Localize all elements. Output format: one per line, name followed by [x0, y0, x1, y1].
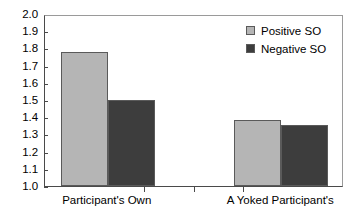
bar-negative-so-1	[281, 125, 328, 186]
y-axis-tick-label: 1.1	[0, 164, 38, 175]
bar-positive-so-0	[61, 52, 108, 186]
y-axis-tick-mark	[44, 84, 48, 85]
y-axis-tick-label: 1.0	[0, 181, 38, 192]
y-axis-tick-label: 1.3	[0, 129, 38, 140]
y-axis-tick-mark	[44, 32, 48, 33]
x-axis-category-label: A Yoked Participant's	[200, 193, 355, 207]
y-axis-tick-mark	[44, 187, 48, 188]
legend-label: Positive SO	[261, 25, 321, 37]
y-axis-tick-labels: 2.01.91.81.71.61.51.41.31.21.11.0	[0, 0, 44, 216]
y-axis-tick-mark	[44, 67, 48, 68]
y-axis-tick-label: 1.9	[0, 26, 38, 37]
y-axis-tick-label: 1.8	[0, 43, 38, 54]
x-axis-tick-mark	[144, 187, 145, 192]
x-axis-tick-mark	[194, 187, 195, 192]
y-axis-tick-mark	[44, 118, 48, 119]
x-axis-tick-mark	[243, 187, 244, 192]
y-axis-tick-label: 1.6	[0, 78, 38, 89]
y-axis-tick-mark	[44, 101, 48, 102]
bar-chart-figure: 2.01.91.81.71.61.51.41.31.21.11.0 Partic…	[0, 0, 355, 216]
bar-negative-so-0	[108, 100, 155, 186]
bar-positive-so-1	[234, 120, 281, 186]
legend-swatch-icon	[246, 44, 255, 53]
legend-item: Negative SO	[246, 42, 326, 55]
y-axis-tick-mark	[44, 153, 48, 154]
chart-legend: Positive SONegative SO	[246, 24, 326, 55]
y-axis-tick-mark	[44, 135, 48, 136]
legend-swatch-icon	[246, 26, 255, 35]
y-axis-tick-label: 1.7	[0, 61, 38, 72]
legend-item: Positive SO	[246, 24, 326, 37]
y-axis-tick-mark	[44, 49, 48, 50]
y-axis-tick-mark	[44, 170, 48, 171]
x-axis-category-label: Participant's Own	[27, 193, 187, 207]
y-axis-tick-label: 1.2	[0, 147, 38, 158]
y-axis-tick-label: 1.5	[0, 95, 38, 106]
y-axis-tick-label: 1.4	[0, 112, 38, 123]
y-axis-tick-label: 2.0	[0, 9, 38, 20]
legend-label: Negative SO	[261, 43, 326, 55]
